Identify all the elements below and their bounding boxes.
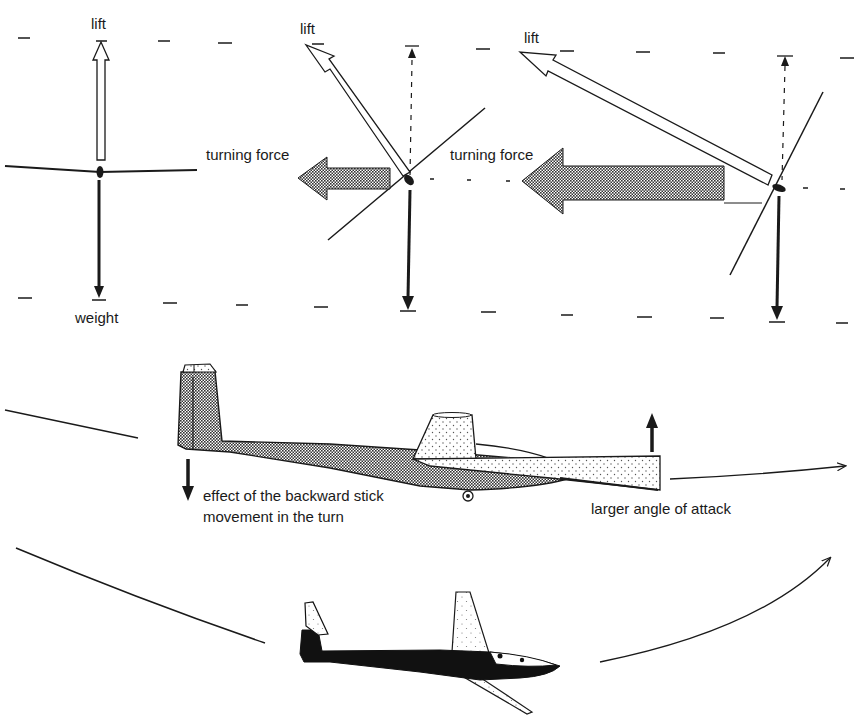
turning-force-arrow-icon bbox=[298, 157, 390, 200]
weight-arrow-icon bbox=[400, 190, 416, 311]
turning-force-label: turning force bbox=[450, 146, 533, 163]
glider-side-view: effect of the backward stick movement in… bbox=[5, 364, 845, 525]
lift-arrow-icon bbox=[306, 45, 410, 176]
steep-bank-forces: lift turning force bbox=[450, 29, 823, 322]
weight-arrow-icon bbox=[769, 196, 785, 322]
up-arrow-icon bbox=[646, 413, 658, 452]
lift-label: lift bbox=[300, 20, 316, 37]
down-arrow-icon bbox=[182, 459, 194, 501]
lift-arrow-icon bbox=[93, 41, 109, 160]
lift-label: lift bbox=[91, 15, 107, 32]
turning-force-label: turning force bbox=[206, 146, 289, 163]
glider-turn-diagram: lift weight lift turning force bbox=[0, 0, 864, 724]
wing-annotation: larger angle of attack bbox=[591, 500, 732, 517]
weight-arrow-icon bbox=[92, 180, 106, 300]
level-flight-forces: lift weight bbox=[5, 15, 197, 326]
lift-label: lift bbox=[524, 29, 540, 46]
dashed-reference-lines bbox=[18, 38, 854, 323]
weight-label: weight bbox=[74, 309, 119, 326]
glider-in-turn bbox=[16, 548, 830, 714]
tail-annotation-line1: effect of the backward stick bbox=[203, 487, 384, 504]
moderate-bank-forces: lift turning force bbox=[206, 20, 485, 311]
tail-annotation-line2: movement in the turn bbox=[203, 508, 344, 525]
